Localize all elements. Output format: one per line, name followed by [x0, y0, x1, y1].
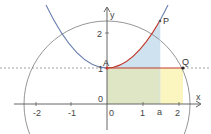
x-tick-label-neg1: -1: [68, 108, 76, 118]
rectangle-a-to-2: [160, 68, 183, 104]
x-axis-label: x: [196, 92, 201, 102]
x-tick-label-2: 2: [175, 108, 180, 118]
x-tick-label-neg2: -2: [33, 108, 41, 118]
y-axis-label: y: [110, 10, 115, 20]
function-graph: -2 -1 0 1 a 2 0 1 2 x y A P Q: [0, 0, 211, 134]
point-P: [159, 20, 162, 23]
label-P: P: [163, 16, 169, 26]
label-A: A: [103, 58, 109, 68]
x-tick-label-1: 1: [140, 108, 145, 118]
region-under-parabola: [107, 21, 160, 69]
rectangle-0-to-a: [107, 68, 160, 104]
origin-label: 0: [98, 94, 103, 104]
label-Q: Q: [182, 57, 189, 67]
x-tick-label-a: a: [157, 107, 162, 117]
y-tick-label-2: 2: [97, 29, 102, 39]
x-tick-label-0: 0: [109, 108, 114, 118]
